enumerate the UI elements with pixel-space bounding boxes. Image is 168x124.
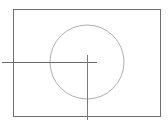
diagram-canvas — [0, 0, 168, 124]
